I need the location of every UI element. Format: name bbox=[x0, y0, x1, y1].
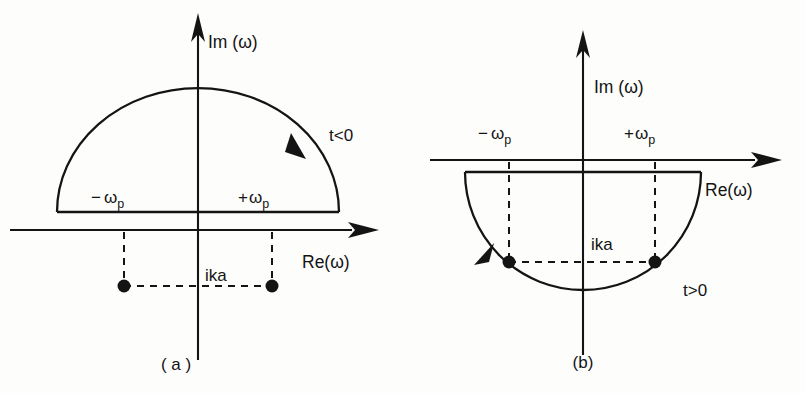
pos-sign: + bbox=[238, 188, 248, 207]
pole-offset-label-a: ika bbox=[205, 266, 227, 285]
real-axis-label: Re(ω) bbox=[302, 252, 350, 272]
pole-negative bbox=[503, 256, 516, 269]
positive-pole-tick-label-a: +ωp bbox=[238, 188, 269, 211]
real-axis-label: Re(ω) bbox=[705, 180, 753, 200]
pole-negative bbox=[118, 280, 131, 293]
real-axis-arrow-icon bbox=[348, 222, 379, 238]
svg-text:−ωp: −ωp bbox=[91, 188, 124, 211]
panel-caption-b: (b) bbox=[573, 353, 594, 372]
contour-direction-arrow-icon bbox=[285, 133, 306, 159]
imaginary-axis-a bbox=[191, 13, 205, 360]
time-condition-label-b: t>0 bbox=[683, 281, 707, 300]
neg-omega: ω bbox=[104, 188, 117, 207]
real-axis-arrow-icon bbox=[751, 152, 782, 168]
negative-pole-tick-label-b: −ωp bbox=[478, 124, 511, 147]
real-axis-a bbox=[10, 222, 379, 238]
positive-pole-tick-label-b: +ωp bbox=[624, 124, 655, 147]
contour-direction-arrow-icon bbox=[474, 243, 494, 265]
neg-subscript: p bbox=[117, 197, 124, 211]
real-axis-b bbox=[430, 152, 782, 168]
pos-subscript: p bbox=[648, 133, 655, 147]
panel-a: Im (ω) Re(ω) −ωp +ωp ika t<0 ( a ) bbox=[0, 0, 403, 393]
svg-text:+ωp: +ωp bbox=[624, 124, 655, 147]
pos-omega: ω bbox=[249, 188, 262, 207]
time-condition-label-a: t<0 bbox=[329, 126, 353, 145]
panel-b: Im (ω) Re(ω) −ωp +ωp ika t>0 (b) bbox=[402, 0, 805, 393]
neg-sign: − bbox=[478, 124, 488, 143]
panel-caption-a: ( a ) bbox=[161, 355, 191, 374]
neg-subscript: p bbox=[504, 133, 511, 147]
pos-subscript: p bbox=[262, 197, 269, 211]
negative-pole-tick-label-a: −ωp bbox=[91, 188, 124, 211]
pole-positive bbox=[266, 280, 279, 293]
neg-sign: − bbox=[91, 188, 101, 207]
pole-positive bbox=[649, 256, 662, 269]
pos-omega: ω bbox=[635, 124, 648, 143]
svg-text:−ωp: −ωp bbox=[478, 124, 511, 147]
imaginary-axis-label: Im (ω) bbox=[594, 77, 644, 97]
pole-offset-label-b: ika bbox=[591, 235, 613, 254]
imaginary-axis-label: Im (ω) bbox=[208, 32, 258, 52]
svg-text:+ωp: +ωp bbox=[238, 188, 269, 211]
imaginary-axis-b bbox=[576, 30, 590, 355]
pos-sign: + bbox=[624, 124, 634, 143]
neg-omega: ω bbox=[491, 124, 504, 143]
figure-root: Im (ω) Re(ω) −ωp +ωp ika t<0 ( a ) bbox=[0, 0, 805, 393]
